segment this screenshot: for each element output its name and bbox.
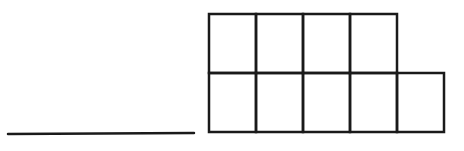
square-grid: [209, 14, 444, 132]
grid-cell: [350, 14, 397, 73]
grid-cell: [397, 73, 444, 132]
grid-cell: [303, 14, 350, 73]
grid-cell: [256, 73, 303, 132]
diagram-canvas: [0, 0, 464, 151]
grid-cell: [350, 73, 397, 132]
grid-cell: [303, 73, 350, 132]
grid-cell: [209, 73, 256, 132]
grid-cell: [256, 14, 303, 73]
grid-cell: [209, 14, 256, 73]
answer-blank-line: [8, 133, 194, 134]
